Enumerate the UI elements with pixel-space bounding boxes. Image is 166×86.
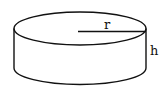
radius-label: r [104, 17, 111, 32]
cylinder-diagram: r h [0, 0, 166, 86]
bottom-arc [14, 68, 146, 85]
top-ellipse [14, 12, 146, 45]
cylinder-drawing: r h [0, 0, 166, 86]
height-label: h [150, 43, 159, 58]
